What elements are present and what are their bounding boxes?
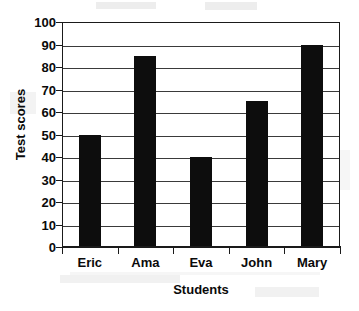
scan-artifact xyxy=(96,2,156,9)
gridline xyxy=(63,158,339,159)
gridline xyxy=(63,136,339,137)
gridline xyxy=(63,113,339,114)
gridline xyxy=(63,203,339,204)
gridline xyxy=(63,68,339,69)
y-axis-tick xyxy=(56,180,62,181)
x-axis-tick xyxy=(284,248,285,254)
y-axis-tick xyxy=(56,45,62,46)
x-axis-tick-label: Eric xyxy=(62,256,118,269)
y-axis-tick-label: 20 xyxy=(16,196,56,209)
scan-artifact xyxy=(205,2,257,10)
x-axis-tick-label: Eva xyxy=(173,256,229,269)
y-axis-tick xyxy=(56,112,62,113)
x-axis-tick xyxy=(118,248,119,254)
x-axis-title: Students xyxy=(62,282,340,297)
gridline xyxy=(63,226,339,227)
x-axis-tick-label: Mary xyxy=(284,256,340,269)
y-axis-tick xyxy=(56,135,62,136)
gridline xyxy=(63,46,339,47)
y-axis-tick xyxy=(56,22,62,23)
x-axis-tick-label: John xyxy=(229,256,285,269)
y-axis-tick xyxy=(56,67,62,68)
y-axis-tick-label: 90 xyxy=(16,39,56,52)
y-axis-title: Test scores xyxy=(13,65,28,185)
x-axis-tick xyxy=(340,248,341,254)
y-axis-tick-label: 10 xyxy=(16,219,56,232)
plot-area xyxy=(62,22,340,247)
scan-artifact xyxy=(70,272,320,275)
bar-chart-screenshot: 0102030405060708090100 EricAmaEvaJohnMar… xyxy=(0,0,359,311)
y-axis-tick xyxy=(56,90,62,91)
y-axis-tick xyxy=(56,157,62,158)
y-axis-tick-label: 0 xyxy=(16,241,56,254)
x-axis-tick-label: Ama xyxy=(118,256,174,269)
gridline xyxy=(63,181,339,182)
y-axis-tick-label: 100 xyxy=(16,16,56,29)
x-axis-tick xyxy=(229,248,230,254)
x-axis-line xyxy=(62,246,341,248)
x-axis-tick xyxy=(62,248,63,254)
y-axis-tick xyxy=(56,225,62,226)
x-axis-tick xyxy=(173,248,174,254)
gridline xyxy=(63,91,339,92)
y-axis-tick xyxy=(56,202,62,203)
